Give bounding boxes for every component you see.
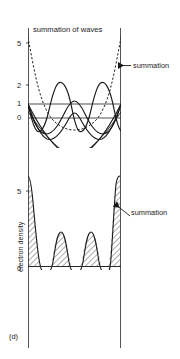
top-panel-plot: [27, 33, 122, 150]
top-wave-5: [89, 104, 121, 150]
figure-canvas: [0, 0, 180, 359]
top-wave-1: [28, 82, 121, 131]
bottom-density-curve: [28, 176, 121, 275]
bottom-panel-plot: [28, 176, 121, 275]
bottom-density-area: [28, 176, 121, 266]
figure-panel-d: summation of waves 5 2 1 0 summation 5 0…: [0, 0, 180, 359]
top-summation-curve: [27, 33, 122, 130]
